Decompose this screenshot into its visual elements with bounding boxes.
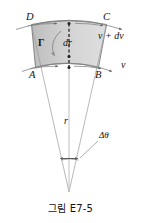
figure-caption: 그림 E7-5 — [0, 200, 141, 215]
figure-container: D C A B Γ dr r Δθ v + dv v 그림 E7-5 — [0, 0, 141, 223]
circulation-diagram — [0, 0, 141, 223]
angle-indicator — [61, 141, 99, 160]
